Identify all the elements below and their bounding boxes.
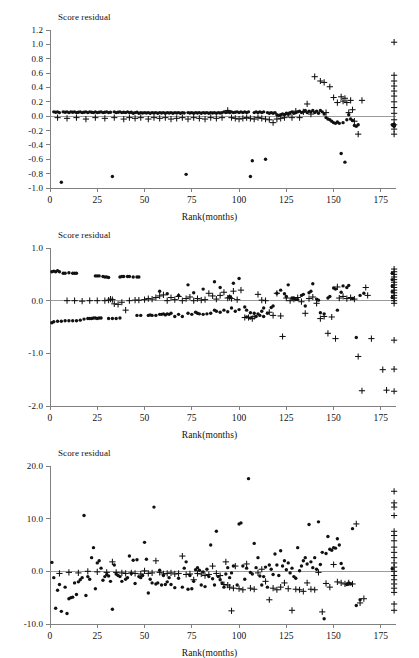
data-point-dot: [173, 586, 176, 589]
plot-canvas: [0, 0, 419, 218]
data-point-dot: [126, 576, 129, 579]
data-point-dot: [109, 580, 112, 583]
data-point-dot: [128, 275, 131, 278]
data-point-dot: [338, 543, 341, 546]
x-tick-label: 175: [374, 631, 389, 641]
data-point-plus: [160, 292, 166, 298]
data-point-dot: [122, 275, 125, 278]
data-point-dot: [94, 587, 97, 590]
data-point-plus: [136, 297, 142, 303]
data-point-dot: [338, 122, 341, 125]
data-point-dot: [241, 564, 244, 567]
data-point-plus: [191, 577, 197, 583]
data-point-dot: [150, 314, 153, 317]
data-point-dot: [251, 159, 254, 162]
data-point-plus: [285, 586, 291, 592]
data-point-dot: [339, 152, 342, 155]
data-point-dot: [215, 530, 218, 533]
data-point-dot: [166, 580, 169, 583]
data-point-dot: [205, 312, 208, 315]
data-point-dot: [154, 314, 157, 317]
data-point-plus: [391, 39, 397, 45]
data-point-plus: [247, 585, 253, 591]
data-point-dot: [73, 581, 76, 584]
data-point-plus: [391, 99, 397, 105]
data-point-dot: [355, 336, 358, 339]
data-point-dot: [317, 520, 320, 523]
data-point-plus: [230, 288, 236, 294]
data-point-dot: [213, 583, 216, 586]
data-point-dot: [101, 579, 104, 582]
data-point-plus: [149, 570, 155, 576]
data-point-dot: [198, 312, 201, 315]
data-point-dot: [75, 272, 78, 275]
data-point-dot: [131, 559, 134, 562]
data-point-dot: [245, 308, 248, 311]
data-point-dot: [273, 552, 276, 555]
data-point-dot: [218, 311, 221, 314]
data-point-dot: [113, 563, 116, 566]
data-point-plus: [126, 115, 132, 121]
data-point-plus: [391, 607, 397, 613]
data-point-plus: [312, 587, 318, 593]
data-point-plus: [391, 504, 397, 510]
data-point-plus: [198, 297, 204, 303]
data-point-dot: [56, 320, 59, 323]
data-point-plus: [111, 115, 117, 121]
data-point-dot: [262, 315, 265, 318]
data-point-plus: [336, 295, 342, 301]
data-point-dot: [181, 315, 184, 318]
data-point-plus: [262, 578, 268, 584]
data-point-dot: [183, 566, 186, 569]
data-point-plus: [187, 571, 193, 577]
data-point-dot: [71, 595, 74, 598]
data-point-dot: [260, 583, 263, 586]
data-point-dot: [298, 569, 301, 572]
x-axis-label: Rank(months): [0, 648, 419, 658]
data-point-plus: [325, 330, 331, 336]
data-point-plus: [123, 307, 129, 313]
data-point-dot: [228, 576, 231, 579]
data-point-dot: [319, 563, 322, 566]
data-point-dot: [254, 566, 257, 569]
x-tick-label: 50: [140, 413, 150, 423]
data-point-dot: [336, 308, 339, 311]
data-point-dot: [300, 564, 303, 567]
data-point-dot: [67, 271, 70, 274]
data-point-plus: [217, 292, 223, 298]
data-point-dot: [167, 576, 170, 579]
y-tick-label: 0.2: [31, 97, 43, 107]
data-point-dot: [302, 559, 305, 562]
data-point-plus: [213, 296, 219, 302]
data-point-plus: [391, 589, 397, 595]
data-point-dot: [279, 549, 282, 552]
data-point-plus: [332, 335, 338, 341]
data-point-dot: [322, 617, 325, 620]
data-point-plus: [94, 569, 100, 575]
data-point-dot: [79, 318, 82, 321]
data-point-plus: [126, 298, 132, 304]
data-point-dot: [287, 561, 290, 564]
data-point-plus: [232, 563, 238, 569]
data-point-plus: [121, 116, 127, 122]
data-point-dot: [118, 316, 121, 319]
data-point-dot: [201, 313, 204, 316]
series-dot: [50, 269, 394, 339]
data-point-dot: [324, 552, 327, 555]
data-point-plus: [157, 569, 163, 575]
data-point-plus: [346, 109, 352, 115]
y-tick-label: -0.6: [28, 154, 43, 164]
x-tick-label: 125: [279, 631, 294, 641]
data-point-dot: [198, 569, 201, 572]
x-tick-label: 25: [92, 413, 102, 423]
data-point-plus: [168, 116, 174, 122]
data-point-plus: [391, 488, 397, 494]
x-tick-label: 0: [48, 195, 53, 205]
data-point-dot: [109, 111, 112, 114]
data-point-dot: [67, 319, 70, 322]
x-tick-label: 175: [374, 195, 389, 205]
data-point-dot: [156, 581, 159, 584]
data-point-plus: [228, 115, 234, 121]
data-point-plus: [210, 563, 216, 569]
data-point-dot: [114, 317, 117, 320]
